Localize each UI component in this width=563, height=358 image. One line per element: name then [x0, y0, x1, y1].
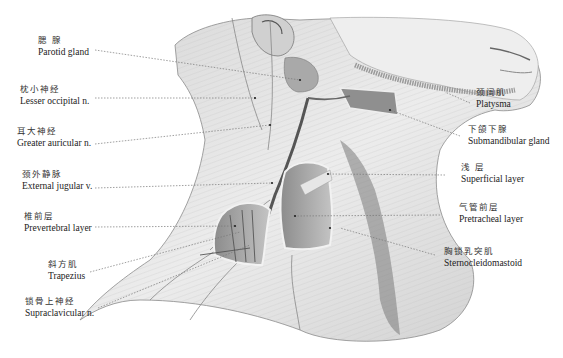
label-greater-auricular-nerve: 耳大神经 Greater auricular n. [17, 125, 91, 149]
label-external-jugular-vein: 颈外静脉 External jugular v. [22, 168, 92, 192]
label-zh: 斜方肌 [48, 258, 85, 270]
label-zh: 气管前层 [459, 201, 523, 213]
label-zh: 椎前层 [24, 210, 92, 222]
label-en: Sternocleidomastoid [444, 257, 522, 269]
label-en: Submandibular gland [468, 135, 550, 147]
label-zh: 浅 层 [461, 161, 524, 173]
label-submandibular-gland: 下颌下腺 Submandibular gland [468, 123, 550, 147]
label-pretracheal-layer: 气管前层 Pretracheal layer [459, 201, 523, 225]
label-sternocleidomastoid: 胸锁乳突肌 Sternocleidomastoid [444, 245, 522, 269]
label-zh: 下颌下腺 [468, 123, 550, 135]
label-zh: 腮 腺 [38, 34, 89, 46]
label-en: Superficial layer [461, 173, 524, 185]
anatomy-figure: 腮 腺 Parotid gland 枕小神经 Lesser occipital … [0, 0, 563, 358]
label-en: Prevertebral layer [24, 222, 92, 234]
label-zh: 锁骨上神经 [25, 295, 94, 307]
label-zh: 胸锁乳突肌 [444, 245, 522, 257]
label-en: Platysma [476, 98, 511, 110]
label-zh: 颈阔肌 [476, 86, 511, 98]
label-en: Trapezius [48, 270, 85, 282]
label-trapezius: 斜方肌 Trapezius [48, 258, 85, 282]
label-en: Supraclavicular n. [25, 307, 94, 319]
label-en: Lesser occipital n. [20, 95, 89, 107]
label-en: Greater auricular n. [17, 137, 91, 149]
label-en: Parotid gland [38, 46, 89, 58]
label-en: External jugular v. [22, 180, 92, 192]
label-prevertebral-layer: 椎前层 Prevertebral layer [24, 210, 92, 234]
label-zh: 枕小神经 [20, 83, 89, 95]
label-en: Pretracheal layer [459, 213, 523, 225]
label-platysma: 颈阔肌 Platysma [476, 86, 511, 110]
label-parotid-gland: 腮 腺 Parotid gland [38, 34, 89, 58]
label-zh: 耳大神经 [17, 125, 91, 137]
label-lesser-occipital-nerve: 枕小神经 Lesser occipital n. [20, 83, 89, 107]
label-superficial-layer: 浅 层 Superficial layer [461, 161, 524, 185]
label-zh: 颈外静脉 [22, 168, 92, 180]
label-supraclavicular-nerve: 锁骨上神经 Supraclavicular n. [25, 295, 94, 319]
